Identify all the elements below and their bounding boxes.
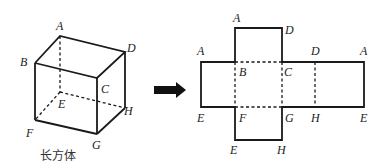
vertex-label-G: G: [92, 138, 101, 152]
cuboid-caption: 长方体: [40, 148, 76, 163]
cuboid-top-face: [35, 36, 125, 78]
right-arrow-icon: [154, 82, 186, 98]
net-label-A-top: A: [232, 11, 241, 25]
net-label-D: D: [310, 44, 320, 58]
net-label-F: F: [238, 111, 247, 125]
hidden-edge-EH: [60, 92, 125, 108]
net-label-E-bottom: E: [229, 143, 238, 157]
vertex-label-A: A: [55, 19, 64, 33]
net-label-A-left: A: [196, 44, 205, 58]
net-label-H: H: [310, 111, 321, 125]
vertex-label-C: C: [101, 82, 110, 96]
hidden-edge-EF: [35, 92, 60, 120]
vertex-label-B: B: [20, 55, 28, 69]
net-label-H-bottom: H: [276, 143, 287, 157]
net-label-B: B: [239, 65, 247, 79]
net-label-A-right: A: [359, 44, 368, 58]
vertex-label-D: D: [126, 41, 136, 55]
vertex-label-H: H: [123, 104, 134, 118]
edge-GH: [97, 108, 125, 134]
vertex-label-F: F: [25, 126, 34, 140]
net-label-G: G: [285, 111, 294, 125]
cuboid-net: A D A B C D A E F G H E E H: [196, 11, 368, 157]
net-label-D-top: D: [284, 23, 294, 37]
cuboid-figure: A B C D E F G H 长方体: [20, 19, 136, 163]
edge-FG: [35, 120, 97, 134]
net-label-E-left: E: [196, 111, 205, 125]
net-label-C: C: [284, 65, 293, 79]
vertex-label-E: E: [57, 97, 66, 111]
cuboid-unfolding-diagram: A B C D E F G H 长方体 A D A B C D A E F G …: [0, 0, 385, 168]
net-label-E-right: E: [359, 111, 368, 125]
